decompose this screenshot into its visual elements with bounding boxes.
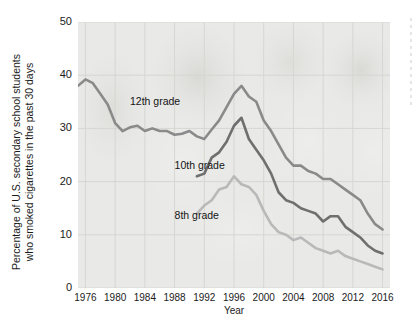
x-tick-2012: 2012 [342,292,364,303]
page-edge-artifact [410,18,412,106]
y-tick-50: 50 [46,15,72,27]
x-tick-1976: 1976 [74,292,96,303]
y-axis-tick-labels: 01020304050 [44,0,72,333]
x-tick-1980: 1980 [104,292,126,303]
x-tick-2000: 2000 [253,292,275,303]
x-tick-1984: 1984 [134,292,156,303]
series-label-10th-grade: 10th grade [175,159,225,171]
x-axis-label: Year [224,305,244,316]
x-tick-2016: 2016 [371,292,393,303]
grid-and-series [78,22,390,288]
x-tick-1996: 1996 [223,292,245,303]
x-tick-1988: 1988 [163,292,185,303]
plot-area [78,22,390,288]
y-axis-label-line1: Percentage of U.S. secondary school stud… [10,54,23,270]
y-axis-label-line2: who smoked cigarettes in the past 30 day… [23,63,36,261]
y-tick-0: 0 [46,281,72,293]
series-line-12th-grade [78,79,383,229]
y-tick-30: 30 [46,121,72,133]
x-tick-1992: 1992 [193,292,215,303]
y-tick-10: 10 [46,228,72,240]
chart-figure: Percentage of U.S. secondary school stud… [0,0,420,333]
series-line-10th-grade [197,118,383,254]
y-axis-label: Percentage of U.S. secondary school stud… [8,36,38,288]
series-label-12th-grade: 12th grade [130,95,180,107]
y-tick-40: 40 [46,68,72,80]
series-label-8th-grade: 8th grade [175,209,219,221]
x-tick-2004: 2004 [282,292,304,303]
series-line-8th-grade [197,176,383,269]
y-tick-20: 20 [46,175,72,187]
x-tick-2008: 2008 [312,292,334,303]
